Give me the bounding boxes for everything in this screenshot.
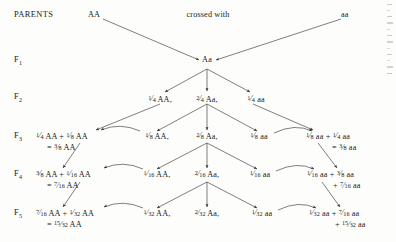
row-label-f1: F1 [14,55,22,66]
row-label-f4: F4 [14,169,22,180]
f4-class-aa-homozygous: 1⁄16 AA, [144,169,171,180]
row-label-f3: F3 [14,131,22,142]
f2-class-heterozygous: 2⁄4 Aa, [196,94,217,105]
f5-cumulative-dominant-sum: 7⁄16 AA + 1⁄32 AA = 15⁄32 AA [36,208,94,230]
f3-class-heterozygous: 2⁄8 Aa, [196,131,217,142]
f3-class-aa-homozygous: 1⁄8 AA, [145,131,169,142]
row-label-f5: F5 [14,208,22,219]
f1-genotype: Aa [202,55,212,65]
f5-recessive-total: + 15⁄32 aa [309,219,366,230]
fraction: 2⁄4 [196,94,204,104]
f5-class-aa-recessive: 1⁄32 aa [252,208,273,219]
f3-dominant-total: = 3⁄8 AA [36,142,88,153]
f3-cumulative-recessive-sum: 1⁄8 aa + 1⁄4 aa = 3⁄8 aa [306,131,356,153]
fraction: 1⁄4 [247,94,255,104]
genotype: aa [257,95,265,104]
f2-class-aa-homozygous: 1⁄4 AA, [148,94,172,105]
parent-genotype-left: AA [88,10,100,20]
f4-dominant-total: = 7⁄16 AA [36,180,91,191]
f5-cumulative-recessive-sum: 1⁄32 aa + 7⁄16 aa + 15⁄32 aa [309,208,366,230]
genotype: AA, [158,95,172,104]
f3-recessive-total: = 3⁄8 aa [306,142,356,153]
cross-label: crossed with [187,10,230,20]
f5-class-aa-homozygous: 1⁄32 AA, [144,208,171,219]
fraction: 1⁄4 [148,94,156,104]
parent-genotype-right: aa [341,10,349,20]
f3-class-aa-recessive: 1⁄8 aa [250,131,267,142]
row-label-f2: F2 [14,92,22,103]
f4-recessive-total: + 7⁄16 aa [307,180,361,191]
f4-cumulative-dominant-sum: 3⁄8 AA + 1⁄16 AA = 7⁄16 AA [36,169,91,191]
genetics-pedigree-figure: PARENTS F1 F2 F3 F4 F5 AA crossed with a… [0,0,396,242]
scan-edge-artifacts [387,4,394,116]
row-label-parents: PARENTS [14,10,53,19]
genotype: Aa, [206,95,218,104]
f5-dominant-total: = 15⁄32 AA [36,219,94,230]
f4-class-aa-recessive: 1⁄16 aa [250,169,271,180]
f2-class-aa-recessive: 1⁄4 aa [247,94,264,105]
f4-class-heterozygous: 2⁄16 Aa, [195,169,220,180]
f5-class-heterozygous: 2⁄32 Aa, [195,208,220,219]
f3-cumulative-dominant-sum: 1⁄4 AA + 1⁄8 AA = 3⁄8 AA [36,131,88,153]
pedigree-connector-lines [0,0,396,242]
f4-cumulative-recessive-sum: 1⁄16 aa + 3⁄8 aa + 7⁄16 aa [307,169,361,191]
